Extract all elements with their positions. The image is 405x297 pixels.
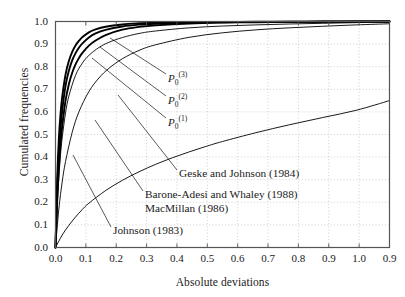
y-tick-label: 0.2 [14, 195, 48, 207]
chart-figure: Cumulated frequencies Absolute deviation… [0, 0, 405, 297]
y-tick-label: 0.3 [14, 173, 48, 185]
x-tick-label: 0.0 [41, 252, 71, 264]
x-tick-label: 1.0 [344, 252, 374, 264]
annotation-leader-line [110, 38, 166, 74]
annotation-leader-line [95, 120, 143, 191]
x-tick-label: 0.3 [132, 252, 162, 264]
y-tick-label: 0.1 [14, 218, 48, 230]
x-tick-label: 0.1 [71, 252, 101, 264]
y-tick-label: 1.0 [14, 15, 48, 27]
x-tick-label: 0.9 [375, 252, 405, 264]
y-tick-label: 0.4 [14, 150, 48, 162]
p0-3-annotation: P0(3) [168, 70, 187, 87]
y-tick-label: 0.6 [14, 105, 48, 117]
x-axis-title: Absolute deviations [55, 276, 390, 288]
y-tick-label: 0.8 [14, 60, 48, 72]
y-tick-label: 0.9 [14, 37, 48, 49]
x-tick-label: 0.2 [101, 252, 131, 264]
barone-adesi-whaley-annotation: Barone-Adesi and Whaley (1988) [145, 188, 298, 200]
geske-johnson-annotation: Geske and Johnson (1984) [179, 167, 299, 179]
x-tick-label: 0.4 [162, 252, 192, 264]
johnson-annotation: Johnson (1983) [113, 224, 183, 236]
x-tick-label: 0.9 [314, 252, 344, 264]
y-tick-label: 0.5 [14, 128, 48, 140]
y-tick-label: 0.0 [14, 241, 48, 253]
x-tick-label: 0.5 [192, 252, 222, 264]
x-tick-label: 0.7 [253, 252, 283, 264]
p0-1-annotation: P0(1) [168, 114, 187, 131]
y-tick-label: 0.7 [14, 82, 48, 94]
x-tick-label: 0.8 [283, 252, 313, 264]
p0-2-annotation: P0(2) [168, 92, 187, 109]
macmillan-annotation: MacMillan (1986) [145, 202, 228, 214]
x-tick-label: 0.6 [223, 252, 253, 264]
annotation-leader-line [100, 47, 166, 96]
y-axis-title: Cumulated frequencies [18, 22, 30, 222]
